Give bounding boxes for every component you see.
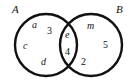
venn-diagram: A B a 3 c d e 4 m 5 2 (0, 0, 132, 83)
element-d: d (41, 57, 46, 67)
set-b-label: B (116, 4, 123, 15)
element-m: m (87, 21, 94, 31)
element-4: 4 (65, 47, 70, 57)
element-3: 3 (47, 26, 52, 36)
element-2: 2 (81, 57, 86, 67)
set-a-label: A (12, 4, 19, 15)
venn-circles-group (0, 0, 132, 83)
element-c: c (23, 41, 27, 51)
element-5: 5 (103, 40, 108, 50)
element-a: a (32, 20, 37, 30)
element-e: e (65, 30, 69, 40)
